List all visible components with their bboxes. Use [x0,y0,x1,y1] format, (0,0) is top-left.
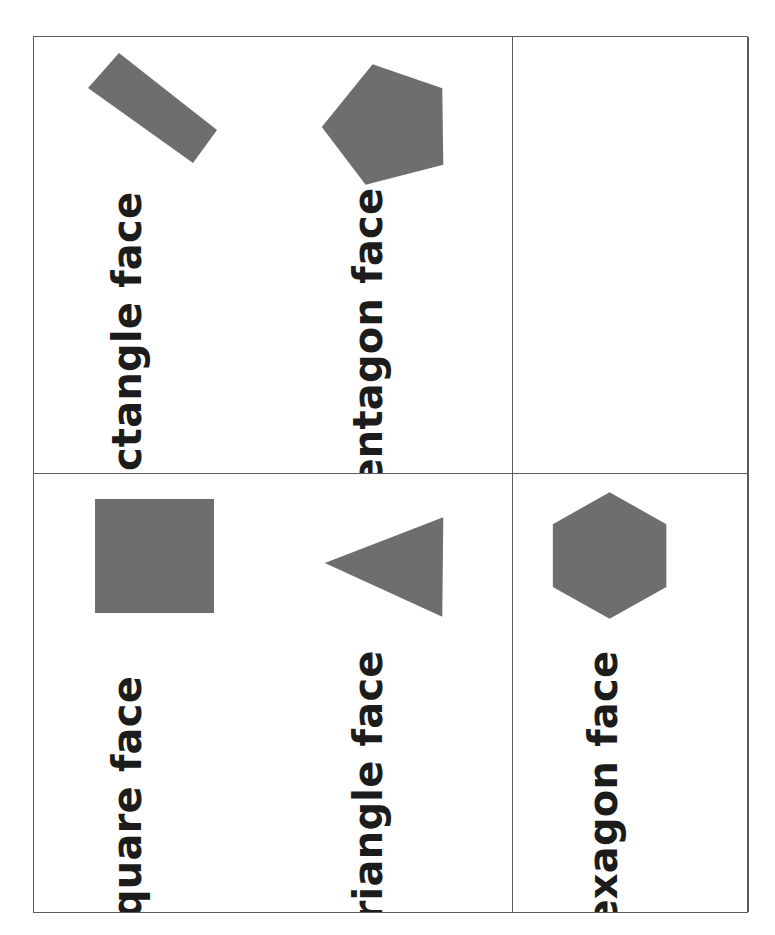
shape-area-square [34,474,273,649]
flashcard-cell-empty[interactable] [513,37,749,474]
flashcard-cell-pentagon[interactable]: pentagon face [273,37,513,474]
flashcard-label-pentagon: pentagon face [348,187,388,474]
square-shape [95,499,214,613]
flashcard-cell-hexagon[interactable]: hexagon face [513,474,749,912]
flashcard-label-hexagon: hexagon face [583,650,623,912]
flashcard-label-square: square face [107,675,147,912]
pentagon-shape [322,64,443,184]
rectangle-shape-svg [34,37,273,212]
worksheet-page: rectangle face pentagon face [0,0,775,935]
shape-area-hexagon [513,474,748,649]
triangle-shape-svg [273,474,512,649]
label-area-rectangle: rectangle face [34,212,273,473]
pentagon-shape-svg [273,37,512,212]
flashcard-grid: rectangle face pentagon face [33,36,748,913]
flashcard-label-rectangle: rectangle face [107,191,147,474]
shape-area-rectangle [34,37,273,212]
flashcard-label-triangle: triangle face [348,650,388,912]
rectangle-shape [88,53,217,163]
label-area-triangle: triangle face [273,649,512,912]
hexagon-shape-svg [513,474,748,649]
label-area-pentagon: pentagon face [273,212,512,473]
square-shape-svg [34,474,273,649]
flashcard-cell-triangle[interactable]: triangle face [273,474,513,912]
label-area-hexagon: hexagon face [513,649,748,912]
shape-area-pentagon [273,37,512,212]
hexagon-shape [553,492,667,618]
shape-area-triangle [273,474,512,649]
triangle-shape [325,517,444,617]
label-area-square: square face [34,649,273,912]
flashcard-cell-square[interactable]: square face [34,474,273,912]
flashcard-cell-rectangle[interactable]: rectangle face [34,37,273,474]
